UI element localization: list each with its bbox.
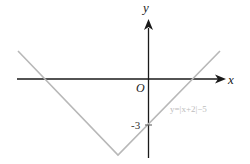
equation-label: y=|x+2|−5 [170, 105, 207, 114]
origin-label: O [136, 82, 145, 94]
y-axis-label: y [143, 1, 149, 14]
y-tick-label: -3 [131, 120, 140, 131]
x-axis-label: x [228, 73, 234, 86]
absolute-value-graph [0, 0, 250, 164]
curve-y-abs-x-plus-2-minus-5 [18, 51, 220, 155]
